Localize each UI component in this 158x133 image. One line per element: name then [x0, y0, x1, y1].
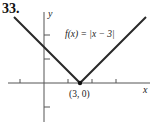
vertex-label: (3, 0) [69, 89, 90, 100]
function-label: f(x) = |x − 3| [65, 29, 115, 40]
y-ticks [44, 35, 50, 107]
x-axis-label: x [142, 84, 148, 95]
x-ticks [20, 79, 116, 83]
function-curve [14, 17, 146, 83]
vertex-point [78, 81, 82, 85]
chart-svg: x y f(x) = |x − 3| (3, 0) [0, 0, 158, 133]
y-axis-label: y [47, 8, 53, 19]
graph-figure: 33. x y f(x) = |x − 3| (3, 0) [0, 0, 158, 133]
problem-number: 33. [2, 1, 20, 17]
